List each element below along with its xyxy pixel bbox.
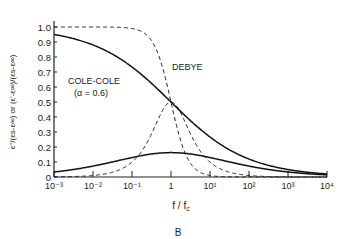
- cole-cole-label: COLE-COLE: [68, 76, 120, 86]
- y-tick-label: 0: [46, 172, 51, 183]
- x-tick-label: 10²: [242, 181, 255, 191]
- y-tick-label: 0.7: [38, 67, 51, 78]
- x-axis-label: f / fc: [172, 200, 190, 212]
- figure-caption: B: [175, 227, 182, 238]
- x-tick-label: 1: [168, 181, 173, 191]
- x-tick-label: 10⁻³: [45, 181, 63, 191]
- x-tick-label: 10⁻¹: [123, 181, 141, 191]
- y-axis-label: ε''/(εs-ε∞) or (ε'-ε∞)/(εs-ε∞): [8, 54, 17, 149]
- y-tick-label: 0.1: [38, 157, 51, 168]
- relaxation-chart: 10⁻³10⁻²10⁻¹110¹10²10³10⁴00.10.20.30.40.…: [0, 0, 351, 239]
- y-tick-label: 0.6: [38, 82, 51, 93]
- y-tick-label: 1.0: [38, 22, 51, 33]
- curves: [54, 27, 327, 177]
- x-tick-label: 10³: [281, 181, 294, 191]
- x-tick-label: 10⁻²: [84, 181, 102, 191]
- axes: 10⁻³10⁻²10⁻¹110¹10²10³10⁴00.10.20.30.40.…: [38, 21, 334, 191]
- cole-cole-real-curve: [54, 35, 327, 175]
- y-tick-label: 0.8: [38, 52, 51, 63]
- y-tick-label: 0.5: [38, 97, 51, 108]
- x-tick-label: 10¹: [203, 181, 216, 191]
- y-tick-label: 0.9: [38, 37, 51, 48]
- cole-cole-alpha-label: (α = 0.6): [74, 88, 108, 98]
- y-tick-label: 0.4: [38, 112, 51, 123]
- y-tick-label: 0.3: [38, 127, 51, 138]
- debye-label: DEBYE: [172, 62, 203, 72]
- x-tick-label: 10⁴: [320, 181, 334, 191]
- y-tick-label: 0.2: [38, 142, 51, 153]
